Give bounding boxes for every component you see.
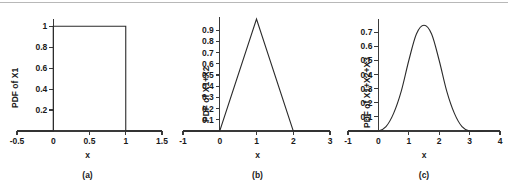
x-tick-label: 0 bbox=[376, 136, 381, 145]
panel-b-caption: (b) bbox=[175, 170, 340, 180]
panel-b-xlabel: x bbox=[175, 150, 340, 160]
panel-a-xlabel: x bbox=[0, 150, 175, 160]
plot-a: -0.500.511.50.20.40.60.81 bbox=[0, 0, 175, 145]
y-tick-label: 0.7 bbox=[202, 48, 214, 58]
y-tick-label: 0.8 bbox=[35, 42, 47, 52]
panel-c: -1012340.10.20.30.40.50.60.7 x PDF of X1… bbox=[340, 0, 508, 187]
y-tick-label: 1 bbox=[43, 21, 48, 31]
y-tick-label: 0.2 bbox=[35, 105, 47, 115]
x-tick-label: 0.5 bbox=[84, 136, 96, 145]
x-tick-label: 2 bbox=[437, 136, 442, 145]
panel-b: -101230.10.20.30.40.50.60.70.80.9 x PDF … bbox=[175, 0, 340, 187]
panel-b-ylabel: PDF of X1+X2 bbox=[201, 66, 211, 122]
plot-b: -101230.10.20.30.40.50.60.70.80.9 bbox=[175, 0, 340, 145]
panel-c-caption: (c) bbox=[340, 170, 508, 180]
x-tick-label: 2 bbox=[291, 136, 296, 145]
x-tick-label: -0.5 bbox=[10, 136, 25, 145]
y-tick-label: 0.4 bbox=[35, 84, 47, 94]
panel-a: -0.500.511.50.20.40.60.81 x PDF of X1 (a… bbox=[0, 0, 175, 187]
x-tick-label: 4 bbox=[498, 136, 503, 145]
x-tick-label: -1 bbox=[179, 136, 187, 145]
x-tick-label: 1.5 bbox=[156, 136, 168, 145]
x-tick-label: 3 bbox=[328, 136, 333, 145]
figure-container: -0.500.511.50.20.40.60.81 x PDF of X1 (a… bbox=[0, 0, 508, 187]
panel-a-caption: (a) bbox=[0, 170, 175, 180]
x-tick-label: 0 bbox=[51, 136, 56, 145]
y-tick-label: 0.6 bbox=[35, 63, 47, 73]
panel-c-ylabel: PDF of X1+X2+X3 bbox=[362, 57, 372, 128]
x-tick-label: 3 bbox=[467, 136, 472, 145]
x-tick-label: 0 bbox=[217, 136, 222, 145]
x-tick-label: 1 bbox=[123, 136, 128, 145]
y-tick-label: 0.6 bbox=[361, 41, 373, 51]
x-tick-label: 1 bbox=[406, 136, 411, 145]
x-tick-label: -1 bbox=[344, 136, 352, 145]
y-tick-label: 0.8 bbox=[202, 36, 214, 46]
panel-c-xlabel: x bbox=[340, 150, 508, 160]
y-tick-label: 0.9 bbox=[202, 25, 214, 35]
panel-a-ylabel: PDF of X1 bbox=[10, 68, 20, 108]
y-tick-label: 0.7 bbox=[361, 27, 373, 37]
x-tick-label: 1 bbox=[254, 136, 259, 145]
